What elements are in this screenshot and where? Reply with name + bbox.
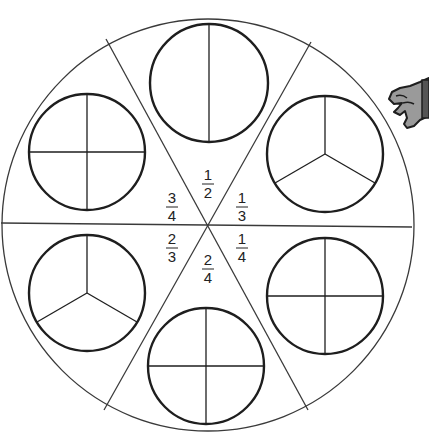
fraction-label-half: 1 2	[202, 166, 214, 201]
pie-lower-left-thirds	[29, 235, 145, 351]
pie-top-halves	[150, 24, 268, 142]
pointing-hand-icon	[389, 78, 429, 128]
svg-text:2: 2	[204, 184, 212, 201]
svg-text:1: 1	[238, 189, 246, 206]
fraction-label-quarter: 1 4	[236, 230, 248, 265]
svg-text:4: 4	[238, 248, 246, 265]
fraction-wheel: 1 2 1 3 1 4 2 4 2 3 3 4	[0, 0, 429, 433]
svg-text:2: 2	[168, 230, 176, 247]
fraction-label-third: 1 3	[236, 189, 248, 224]
fraction-label-two-quarters: 2 4	[202, 251, 214, 286]
svg-text:4: 4	[204, 269, 212, 286]
pie-bottom-quarters	[148, 308, 264, 424]
svg-text:3: 3	[238, 207, 246, 224]
svg-text:4: 4	[168, 207, 176, 224]
pie-lower-right-quarters	[267, 238, 383, 354]
fraction-label-three-quarters: 3 4	[166, 189, 178, 224]
svg-text:1: 1	[238, 230, 246, 247]
fraction-label-two-thirds: 2 3	[166, 230, 178, 265]
svg-text:3: 3	[168, 248, 176, 265]
svg-text:1: 1	[204, 166, 212, 183]
pie-upper-right-thirds	[267, 96, 383, 212]
svg-text:3: 3	[168, 189, 176, 206]
pie-upper-left-quarters	[29, 94, 145, 210]
svg-text:2: 2	[204, 251, 212, 268]
